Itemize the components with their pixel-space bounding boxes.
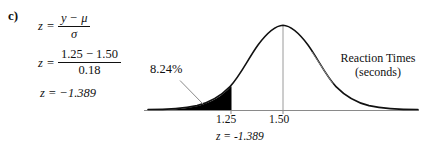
equation-block: z = y − μ σ z = 1.25 − 1.50 0.18 z = −1.… <box>38 12 148 101</box>
series-label-line-1: Reaction Times <box>340 51 415 65</box>
equation-3-result: z = −1.389 <box>40 86 96 101</box>
normal-distribution-figure: c) z = y − μ σ z = 1.25 − 1.50 0.18 z = … <box>0 0 421 155</box>
equation-1-numerator: y − μ <box>58 12 91 26</box>
percent-leader-line <box>180 81 203 105</box>
equation-2-relation: = <box>47 57 54 70</box>
equation-line-1: z = y − μ σ <box>38 12 148 41</box>
equation-2-denominator: 0.18 <box>76 63 104 77</box>
distribution-chart: 8.24% Reaction Times (seconds) 1.25 1.50… <box>140 0 421 155</box>
equation-2-lhs: z <box>38 57 43 70</box>
x-tick-label-1-25: 1.25 <box>216 113 236 125</box>
series-label: Reaction Times (seconds) <box>336 52 420 80</box>
equation-2-fraction: 1.25 − 1.50 0.18 <box>58 48 121 77</box>
equation-line-3: z = −1.389 <box>40 86 148 101</box>
equation-1-denominator: σ <box>68 27 80 41</box>
part-label: c) <box>8 8 18 24</box>
equation-1-lhs: z <box>38 20 43 33</box>
equation-1-relation: = <box>47 20 54 33</box>
shaded-area-percent-label: 8.24% <box>150 62 182 77</box>
equation-2-numerator: 1.25 − 1.50 <box>58 48 121 62</box>
series-label-line-2: (seconds) <box>355 65 401 79</box>
series-leader-line <box>312 52 333 84</box>
x-tick-label-1-50: 1.50 <box>269 113 289 125</box>
equation-1-fraction: y − μ σ <box>58 12 91 41</box>
z-value-annotation: z = -1.389 <box>216 130 264 142</box>
equation-line-2: z = 1.25 − 1.50 0.18 <box>38 48 148 77</box>
